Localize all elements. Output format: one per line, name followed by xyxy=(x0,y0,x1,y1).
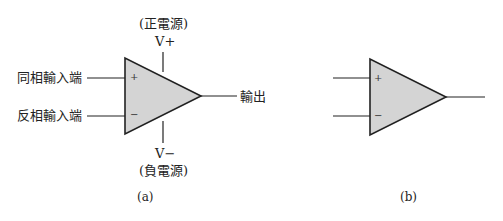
op-amp-triangle xyxy=(370,59,446,135)
minus-sign: − xyxy=(130,110,138,120)
op-amp-a xyxy=(87,52,237,143)
positive-supply-label: (正電源) xyxy=(139,17,188,30)
positive-supply-symbol: V+ xyxy=(155,35,175,48)
plus-sign: + xyxy=(130,72,138,82)
noninverting-input-label: 同相輸入端 xyxy=(17,71,82,84)
minus-sign: − xyxy=(374,111,382,121)
caption-b: (b) xyxy=(400,191,417,203)
negative-supply-label: (負電源) xyxy=(139,164,188,177)
negative-supply-symbol: V− xyxy=(155,147,175,160)
inverting-input-label: 反相輸入端 xyxy=(17,109,82,122)
op-amp-b xyxy=(333,59,485,135)
output-label: 輸出 xyxy=(240,90,266,103)
caption-a: (a) xyxy=(137,191,154,203)
plus-sign: + xyxy=(374,73,382,83)
